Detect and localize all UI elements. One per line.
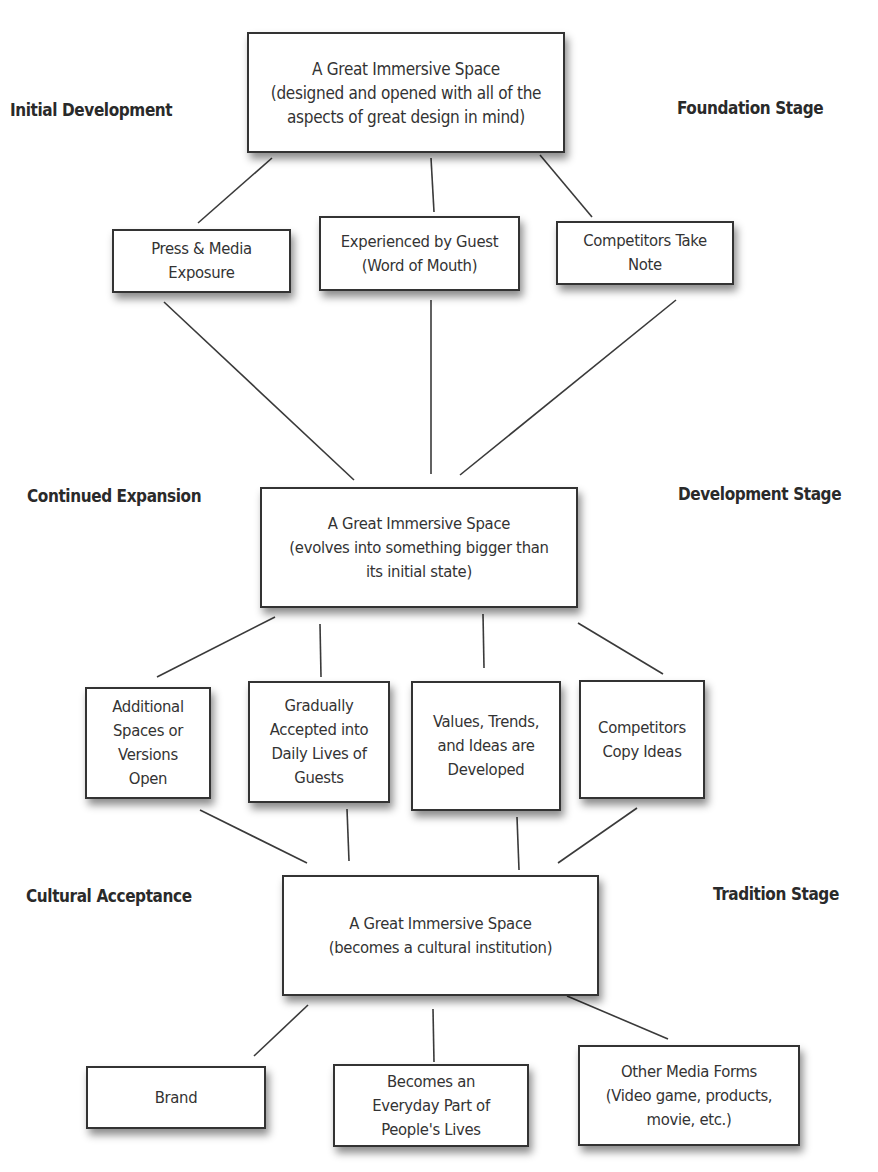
node-foundation-main: A Great Immersive Space (designed and op… [247, 32, 565, 153]
stage-label-tradition-stage: Tradition Stage [713, 884, 839, 904]
node-development-main: A Great Immersive Space (evolves into so… [260, 487, 578, 608]
connector-tradition-to-everyday [433, 1009, 434, 1062]
connector-additional-to-tradition [200, 810, 307, 863]
connector-competitors-copy-to-tradition [558, 808, 637, 863]
connector-gradually-to-tradition [347, 809, 349, 861]
node-experienced-guest: Experienced by Guest (Word of Mouth) [319, 216, 520, 291]
node-gradually-accepted: Gradually Accepted into Daily Lives of G… [248, 681, 390, 803]
node-everyday-part: Becomes an Everyday Part of People's Liv… [333, 1064, 529, 1147]
node-other-media: Other Media Forms (Video game, products,… [578, 1045, 800, 1146]
stage-label-continued-expansion: Continued Expansion [27, 486, 201, 506]
connector-foundation-to-competitors-note [540, 155, 592, 217]
stage-label-development-stage: Development Stage [678, 484, 841, 504]
connector-press-to-development [164, 302, 354, 480]
connector-development-to-gradually [320, 624, 321, 677]
node-values-trends: Values, Trends, and Ideas are Developed [411, 681, 561, 811]
connector-development-to-values [483, 614, 484, 668]
node-brand: Brand [86, 1066, 266, 1129]
stage-label-cultural-acceptance: Cultural Acceptance [26, 886, 192, 906]
connector-foundation-to-press [198, 158, 272, 223]
node-press-media: Press & Media Exposure [112, 229, 291, 293]
connector-development-to-competitors-copy [578, 623, 663, 674]
node-competitors-copy: Competitors Copy Ideas [579, 680, 705, 799]
node-tradition-main: A Great Immersive Space (becomes a cultu… [282, 875, 599, 996]
connector-tradition-to-other-media [567, 996, 668, 1039]
connector-competitors-note-to-development [460, 300, 676, 475]
stage-label-initial-development: Initial Development [10, 100, 172, 120]
connector-tradition-to-brand [254, 1005, 308, 1056]
stage-label-foundation-stage: Foundation Stage [677, 98, 823, 118]
connector-development-to-additional [157, 617, 275, 677]
flow-diagram: Initial Development Foundation Stage Con… [0, 0, 878, 1172]
connector-foundation-to-guest [431, 158, 434, 212]
node-additional-spaces: Additional Spaces or Versions Open [85, 687, 211, 799]
connector-values-to-tradition [517, 817, 519, 870]
node-competitors-note: Competitors Take Note [556, 221, 734, 285]
